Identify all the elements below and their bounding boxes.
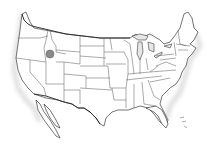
us-states-map-svg [0,0,216,147]
location-marker-dot[interactable] [46,50,54,58]
bahamas-islands [180,117,187,128]
